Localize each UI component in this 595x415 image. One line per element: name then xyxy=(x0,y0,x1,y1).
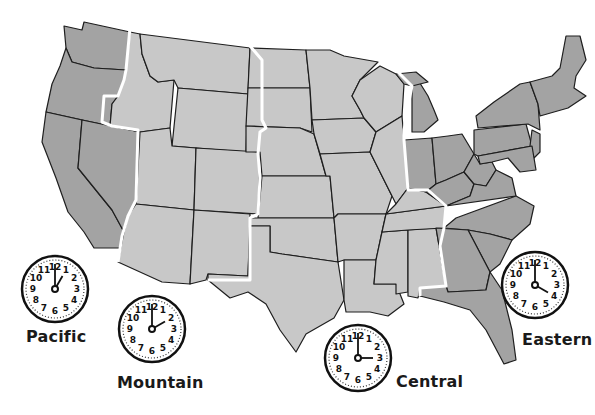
mountain-clock: 121234567891011 xyxy=(117,294,187,364)
clock-numeral: 1 xyxy=(543,261,549,271)
us-time-zone-map xyxy=(0,0,595,415)
clock-numeral: 8 xyxy=(33,295,39,305)
kansas-state xyxy=(258,176,334,218)
clock-numeral: 9 xyxy=(510,280,516,290)
clock-numeral: 7 xyxy=(521,299,527,309)
wyoming-state xyxy=(172,88,248,152)
clock-numeral: 3 xyxy=(554,280,560,290)
clock-numeral: 6 xyxy=(355,375,361,385)
clock-numeral: 6 xyxy=(532,302,538,312)
clock-numeral: 9 xyxy=(30,284,36,294)
clock-numeral: 11 xyxy=(38,265,51,275)
clock-numeral: 5 xyxy=(366,372,372,382)
clock-numeral: 7 xyxy=(41,303,47,313)
iowa-state xyxy=(312,118,376,154)
eastern-label: Eastern xyxy=(522,330,592,349)
clock-numeral: 5 xyxy=(63,303,69,313)
clock-numeral: 4 xyxy=(374,364,380,374)
clock-numeral: 4 xyxy=(168,335,174,345)
clock-numeral: 8 xyxy=(130,335,136,345)
clock-numeral: 7 xyxy=(344,372,350,382)
pacific-zone xyxy=(42,22,140,248)
central-clock: 121234567891011 xyxy=(323,323,393,393)
clock-numeral: 8 xyxy=(336,364,342,374)
clock-numeral: 2 xyxy=(168,313,174,323)
clock-numeral: 6 xyxy=(149,346,155,356)
clock-numeral: 2 xyxy=(71,273,77,283)
mountain-label: Mountain xyxy=(117,373,204,392)
colorado-state xyxy=(194,148,260,214)
clock-numeral: 11 xyxy=(341,334,354,344)
central-label: Central xyxy=(396,372,463,391)
clock-numeral: 2 xyxy=(374,342,380,352)
clock-numeral: 3 xyxy=(171,324,177,334)
clock-numeral: 8 xyxy=(513,291,519,301)
south-dakota-state xyxy=(246,88,312,132)
clock-numeral: 11 xyxy=(135,305,148,315)
clock-numeral: 1 xyxy=(366,334,372,344)
new-england xyxy=(530,36,586,116)
clock-numeral: 3 xyxy=(74,284,80,294)
eastern-clock: 121234567891011 xyxy=(500,250,570,320)
new-york-state xyxy=(476,82,540,130)
clock-numeral: 6 xyxy=(52,306,58,316)
clock-numeral: 4 xyxy=(71,295,77,305)
clock-numeral: 1 xyxy=(160,305,166,315)
clock-numeral: 5 xyxy=(160,343,166,353)
clock-numeral: 3 xyxy=(377,353,383,363)
pacific-label: Pacific xyxy=(26,327,86,346)
pacific-clock: 121234567891011 xyxy=(20,254,90,324)
clock-numeral: 5 xyxy=(543,299,549,309)
clock-numeral: 7 xyxy=(138,343,144,353)
michigan-state xyxy=(412,80,438,132)
clock-numeral: 1 xyxy=(63,265,69,275)
clock-numeral: 9 xyxy=(333,353,339,363)
clock-numeral: 2 xyxy=(551,269,557,279)
new-mexico-state xyxy=(190,210,250,284)
clock-numeral: 9 xyxy=(127,324,133,334)
clock-numeral: 4 xyxy=(551,291,557,301)
clock-numeral: 11 xyxy=(518,261,531,271)
